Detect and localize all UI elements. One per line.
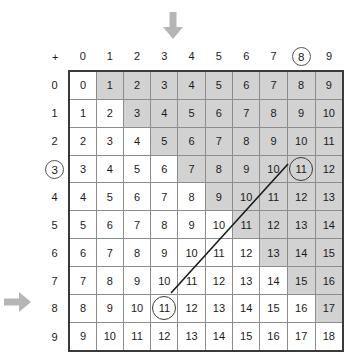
table-cell-r3-c7[interactable]: 10 bbox=[260, 155, 287, 183]
row-header-6[interactable]: 6 bbox=[41, 239, 69, 267]
table-cell-r8-c9[interactable]: 17 bbox=[315, 295, 343, 323]
table-cell-r9-c6[interactable]: 15 bbox=[233, 322, 260, 350]
table-cell-r7-c9[interactable]: 16 bbox=[315, 267, 343, 295]
column-header-3[interactable]: 3 bbox=[151, 43, 178, 71]
table-cell-r5-c3[interactable]: 8 bbox=[151, 211, 178, 239]
table-cell-r0-c7[interactable]: 7 bbox=[260, 71, 287, 99]
table-cell-r7-c6[interactable]: 13 bbox=[233, 267, 260, 295]
table-cell-r6-c9[interactable]: 15 bbox=[315, 239, 343, 267]
table-cell-r4-c4[interactable]: 8 bbox=[178, 183, 205, 211]
table-cell-r8-c2[interactable]: 10 bbox=[123, 295, 150, 323]
table-cell-r7-c8[interactable]: 15 bbox=[287, 267, 315, 295]
table-cell-r9-c9[interactable]: 18 bbox=[315, 322, 343, 350]
table-cell-r9-c2[interactable]: 11 bbox=[123, 322, 150, 350]
table-cell-r2-c0[interactable]: 2 bbox=[69, 127, 96, 155]
table-cell-r3-c9[interactable]: 12 bbox=[315, 155, 343, 183]
table-cell-r4-c0[interactable]: 4 bbox=[69, 183, 96, 211]
table-cell-r7-c0[interactable]: 7 bbox=[69, 267, 96, 295]
row-header-1[interactable]: 1 bbox=[41, 99, 69, 127]
table-cell-r8-c5[interactable]: 13 bbox=[205, 295, 232, 323]
column-header-8[interactable]: 8 bbox=[287, 43, 315, 71]
column-header-4[interactable]: 4 bbox=[178, 43, 205, 71]
table-cell-r6-c7[interactable]: 13 bbox=[260, 239, 287, 267]
table-cell-r7-c7[interactable]: 14 bbox=[260, 267, 287, 295]
table-cell-r3-c1[interactable]: 4 bbox=[96, 155, 123, 183]
table-cell-r7-c1[interactable]: 8 bbox=[96, 267, 123, 295]
table-cell-r8-c6[interactable]: 14 bbox=[233, 295, 260, 323]
table-cell-r6-c2[interactable]: 8 bbox=[123, 239, 150, 267]
table-cell-r4-c2[interactable]: 6 bbox=[123, 183, 150, 211]
table-cell-r4-c9[interactable]: 13 bbox=[315, 183, 343, 211]
table-cell-r9-c0[interactable]: 9 bbox=[69, 322, 96, 350]
table-cell-r8-c4[interactable]: 12 bbox=[178, 295, 205, 323]
table-cell-r5-c1[interactable]: 6 bbox=[96, 211, 123, 239]
table-cell-r2-c6[interactable]: 8 bbox=[233, 127, 260, 155]
table-cell-r2-c7[interactable]: 9 bbox=[260, 127, 287, 155]
row-header-5[interactable]: 5 bbox=[41, 211, 69, 239]
table-cell-r0-c9[interactable]: 9 bbox=[315, 71, 343, 99]
column-header-2[interactable]: 2 bbox=[123, 43, 150, 71]
table-cell-r1-c9[interactable]: 10 bbox=[315, 99, 343, 127]
table-cell-r1-c5[interactable]: 6 bbox=[205, 99, 232, 127]
table-cell-r7-c3[interactable]: 10 bbox=[151, 267, 178, 295]
table-cell-r0-c8[interactable]: 8 bbox=[287, 71, 315, 99]
table-cell-r7-c2[interactable]: 9 bbox=[123, 267, 150, 295]
table-cell-r1-c1[interactable]: 2 bbox=[96, 99, 123, 127]
table-cell-r2-c3[interactable]: 5 bbox=[151, 127, 178, 155]
column-header-6[interactable]: 6 bbox=[233, 43, 260, 71]
table-cell-r6-c4[interactable]: 10 bbox=[178, 239, 205, 267]
table-cell-r3-c8[interactable]: 11 bbox=[287, 155, 315, 183]
table-cell-r3-c2[interactable]: 5 bbox=[123, 155, 150, 183]
table-cell-r0-c5[interactable]: 5 bbox=[205, 71, 232, 99]
table-cell-r7-c5[interactable]: 12 bbox=[205, 267, 232, 295]
row-header-7[interactable]: 7 bbox=[41, 267, 69, 295]
table-cell-r2-c5[interactable]: 7 bbox=[205, 127, 232, 155]
table-cell-r5-c4[interactable]: 9 bbox=[178, 211, 205, 239]
table-cell-r6-c5[interactable]: 11 bbox=[205, 239, 232, 267]
table-cell-r1-c3[interactable]: 4 bbox=[151, 99, 178, 127]
table-cell-r1-c7[interactable]: 8 bbox=[260, 99, 287, 127]
row-header-4[interactable]: 4 bbox=[41, 183, 69, 211]
table-cell-r9-c3[interactable]: 12 bbox=[151, 322, 178, 350]
table-cell-r5-c9[interactable]: 14 bbox=[315, 211, 343, 239]
column-header-5[interactable]: 5 bbox=[205, 43, 232, 71]
row-header-9[interactable]: 9 bbox=[41, 322, 69, 350]
table-cell-r1-c4[interactable]: 5 bbox=[178, 99, 205, 127]
column-header-0[interactable]: 0 bbox=[69, 43, 96, 71]
table-cell-r2-c4[interactable]: 6 bbox=[178, 127, 205, 155]
table-cell-r0-c0[interactable]: 0 bbox=[69, 71, 96, 99]
table-cell-r2-c1[interactable]: 3 bbox=[96, 127, 123, 155]
table-cell-r4-c5[interactable]: 9 bbox=[205, 183, 232, 211]
table-cell-r4-c1[interactable]: 5 bbox=[96, 183, 123, 211]
table-cell-r3-c5[interactable]: 8 bbox=[205, 155, 232, 183]
table-cell-r4-c8[interactable]: 12 bbox=[287, 183, 315, 211]
table-cell-r9-c1[interactable]: 10 bbox=[96, 322, 123, 350]
table-cell-r4-c7[interactable]: 11 bbox=[260, 183, 287, 211]
table-cell-r8-c3[interactable]: 11 bbox=[151, 295, 178, 323]
table-cell-r5-c7[interactable]: 12 bbox=[260, 211, 287, 239]
table-cell-r8-c8[interactable]: 16 bbox=[287, 295, 315, 323]
table-cell-r0-c1[interactable]: 1 bbox=[96, 71, 123, 99]
table-cell-r1-c6[interactable]: 7 bbox=[233, 99, 260, 127]
table-cell-r5-c6[interactable]: 11 bbox=[233, 211, 260, 239]
table-cell-r5-c0[interactable]: 5 bbox=[69, 211, 96, 239]
column-header-7[interactable]: 7 bbox=[260, 43, 287, 71]
table-cell-r0-c2[interactable]: 2 bbox=[123, 71, 150, 99]
table-cell-r6-c0[interactable]: 6 bbox=[69, 239, 96, 267]
table-cell-r5-c8[interactable]: 13 bbox=[287, 211, 315, 239]
table-cell-r1-c8[interactable]: 9 bbox=[287, 99, 315, 127]
table-cell-r8-c0[interactable]: 8 bbox=[69, 295, 96, 323]
table-cell-r5-c2[interactable]: 7 bbox=[123, 211, 150, 239]
table-cell-r4-c3[interactable]: 7 bbox=[151, 183, 178, 211]
table-cell-r9-c8[interactable]: 17 bbox=[287, 322, 315, 350]
table-cell-r1-c2[interactable]: 3 bbox=[123, 99, 150, 127]
table-cell-r8-c7[interactable]: 15 bbox=[260, 295, 287, 323]
table-cell-r0-c3[interactable]: 3 bbox=[151, 71, 178, 99]
column-header-9[interactable]: 9 bbox=[315, 43, 343, 71]
table-cell-r3-c0[interactable]: 3 bbox=[69, 155, 96, 183]
table-cell-r9-c4[interactable]: 13 bbox=[178, 322, 205, 350]
table-cell-r5-c5[interactable]: 10 bbox=[205, 211, 232, 239]
table-cell-r2-c9[interactable]: 11 bbox=[315, 127, 343, 155]
row-header-0[interactable]: 0 bbox=[41, 71, 69, 99]
table-cell-r4-c6[interactable]: 10 bbox=[233, 183, 260, 211]
